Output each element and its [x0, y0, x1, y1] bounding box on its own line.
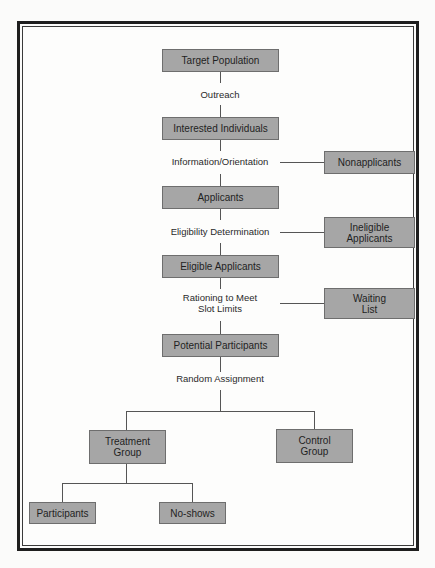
- node-potential-participants: Potential Participants: [162, 334, 279, 357]
- connector-line: [220, 208, 221, 220]
- connector-line: [220, 277, 221, 289]
- node-eligible-applicants: Eligible Applicants: [162, 255, 279, 278]
- node-waiting-list: Waiting List: [324, 288, 415, 319]
- step-random-assignment: Random Assignment: [165, 373, 275, 384]
- connector-line: [220, 243, 221, 255]
- connector-line: [126, 411, 127, 430]
- connector-line: [220, 390, 221, 411]
- connector-line: [280, 303, 324, 304]
- node-control-group: Control Group: [276, 429, 353, 463]
- node-label: Treatment Group: [105, 436, 150, 458]
- node-label: Interested Individuals: [173, 123, 268, 134]
- node-applicants: Applicants: [162, 186, 279, 209]
- node-participants: Participants: [29, 502, 96, 524]
- node-label: Eligible Applicants: [180, 261, 261, 272]
- node-label: No-shows: [170, 508, 214, 519]
- connector-line: [220, 139, 221, 151]
- node-label: Participants: [36, 508, 88, 519]
- connector-line: [280, 232, 324, 233]
- connector-line: [220, 105, 221, 117]
- connector-line: [280, 162, 324, 163]
- connector-line: [220, 174, 221, 186]
- node-treatment-group: Treatment Group: [89, 430, 166, 464]
- node-label: Waiting List: [353, 293, 386, 315]
- node-interested-individuals: Interested Individuals: [162, 117, 279, 140]
- connector-line: [314, 411, 315, 429]
- node-label: Target Population: [182, 55, 260, 66]
- step-outreach: Outreach: [170, 89, 270, 100]
- connector-line: [220, 356, 221, 372]
- node-nonapplicants: Nonapplicants: [324, 151, 415, 174]
- step-rationing: Rationing to Meet Slot Limits: [165, 292, 275, 314]
- node-label: Control Group: [298, 435, 330, 457]
- node-label: Nonapplicants: [338, 157, 401, 168]
- node-ineligible-applicants: Ineligible Applicants: [324, 217, 415, 248]
- connector-line: [62, 483, 63, 502]
- connector-line: [220, 321, 221, 334]
- node-label: Applicants: [197, 192, 243, 203]
- inner-frame: [22, 26, 414, 546]
- connector-line: [220, 71, 221, 83]
- node-label: Potential Participants: [174, 340, 268, 351]
- connector-line: [192, 483, 193, 502]
- node-label: Ineligible Applicants: [346, 222, 392, 244]
- node-no-shows: No-shows: [159, 502, 226, 524]
- branch-line: [126, 411, 314, 412]
- node-target-population: Target Population: [162, 49, 279, 72]
- step-information-orientation: Information/Orientation: [160, 156, 280, 167]
- branch-line: [62, 483, 192, 484]
- step-eligibility-determination: Eligibility Determination: [160, 226, 280, 237]
- connector-line: [126, 463, 127, 483]
